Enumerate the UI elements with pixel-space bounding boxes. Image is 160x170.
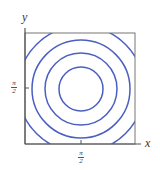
plot-frame xyxy=(25,33,135,144)
y-axis-label: y xyxy=(22,10,27,25)
x-tick-label: π 2 xyxy=(76,150,86,165)
y-tick-label: π 2 xyxy=(9,80,19,95)
contour-1 xyxy=(59,67,103,111)
contour-3 xyxy=(32,40,130,138)
contour-4 xyxy=(18,26,144,152)
contour-2 xyxy=(45,53,117,125)
contour-plot xyxy=(0,0,160,170)
x-axis-label: x xyxy=(145,136,150,151)
